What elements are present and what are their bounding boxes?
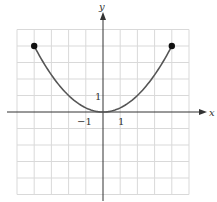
y-tick-1: 1 (95, 91, 101, 102)
graph-canvas: x y −1 1 1 (0, 0, 217, 202)
endpoint-dot (31, 43, 37, 49)
x-axis-arrow-icon (199, 109, 207, 115)
y-axis (100, 12, 106, 201)
y-axis-arrow-icon (100, 12, 106, 20)
x-tick-1: 1 (118, 116, 124, 127)
y-axis-label: y (98, 1, 105, 12)
x-axis-label: x (209, 107, 215, 118)
endpoint-dot (169, 43, 175, 49)
x-tick-neg1: −1 (77, 116, 92, 127)
